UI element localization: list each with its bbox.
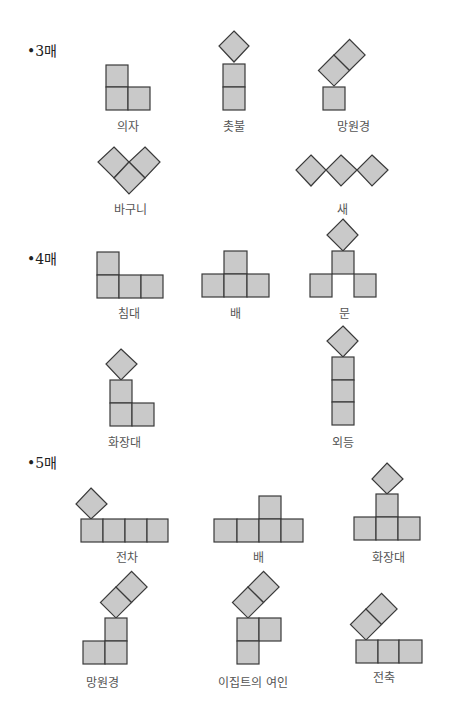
- label-boat-5: 배: [253, 548, 264, 565]
- figure-boat-4: [202, 251, 269, 297]
- figure-candle-3: [219, 31, 249, 110]
- label-telescope-5: 망원경: [86, 673, 119, 690]
- label-bird: 새: [337, 200, 348, 217]
- label-lamp: 외등: [332, 433, 354, 450]
- figure-door-4: [310, 219, 376, 297]
- label-egyptian-woman: 이집트의 여인: [218, 673, 288, 690]
- figure-chair-3: [106, 65, 150, 110]
- figure-bed-4: [97, 252, 163, 298]
- label-boat-4: 배: [230, 304, 241, 321]
- figure-egyptian-woman-5: [232, 571, 281, 664]
- label-door: 문: [339, 304, 350, 321]
- figure-telescope-3: [318, 39, 365, 110]
- figure-bird-3: [296, 155, 388, 186]
- label-chair: 의자: [117, 117, 139, 134]
- figure-lamp-4: [327, 326, 358, 425]
- label-dresser-4: 화장대: [108, 433, 141, 450]
- label-candle: 촛불: [223, 117, 245, 134]
- tangram-figures: [0, 0, 449, 707]
- label-tank: 전차: [116, 548, 138, 565]
- figure-dresser-5: [354, 463, 420, 540]
- label-phonograph: 전축: [373, 668, 395, 685]
- figure-telescope-5: [83, 571, 147, 664]
- figure-dresser-4: [106, 349, 154, 426]
- figure-phonograph-5: [350, 593, 422, 663]
- label-telescope: 망원경: [337, 117, 370, 134]
- figure-tank-5: [76, 488, 168, 542]
- figure-boat-5: [214, 496, 303, 542]
- figure-basket-3: [98, 147, 160, 194]
- label-basket: 바구니: [114, 200, 147, 217]
- label-dresser-5: 화장대: [372, 548, 405, 565]
- label-bed: 침대: [118, 304, 140, 321]
